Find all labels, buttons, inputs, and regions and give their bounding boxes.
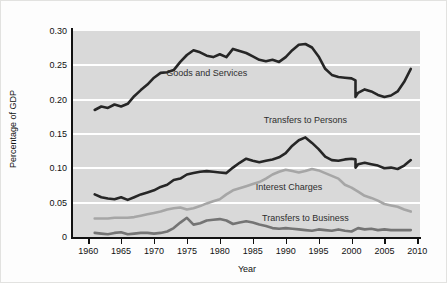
- x-tick-label: 1965: [104, 246, 138, 256]
- y-tick-label: 0.05: [33, 198, 67, 208]
- y-tick-label: 0.25: [33, 60, 67, 70]
- x-tick-label: 2000: [335, 246, 369, 256]
- series-label: Transfers to Persons: [264, 115, 347, 125]
- x-axis-title: Year: [229, 264, 265, 274]
- x-tick: [88, 239, 89, 244]
- x-tick: [417, 239, 418, 244]
- x-tick-label: 1960: [71, 246, 105, 256]
- chart-lines: [73, 31, 420, 237]
- x-tick: [220, 239, 221, 244]
- x-tick: [253, 239, 254, 244]
- series-label: Interest Charges: [256, 182, 323, 192]
- x-tick-label: 1985: [236, 246, 270, 256]
- x-axis-line: [71, 237, 421, 239]
- x-tick: [121, 239, 122, 244]
- x-tick-label: 2010: [400, 246, 434, 256]
- x-tick-label: 1990: [269, 246, 303, 256]
- x-tick-label: 1980: [203, 246, 237, 256]
- series-line: [95, 44, 411, 110]
- series-line: [95, 137, 411, 200]
- x-tick-label: 1995: [302, 246, 336, 256]
- y-tick-label: 0.10: [33, 163, 67, 173]
- series-label: Goods and Services: [166, 68, 247, 78]
- y-tick-label: 0.20: [33, 95, 67, 105]
- x-tick-label: 2005: [367, 246, 401, 256]
- x-tick-label: 1970: [137, 246, 171, 256]
- series-label: Transfers to Business: [262, 213, 349, 223]
- x-tick: [286, 239, 287, 244]
- y-axis-title: Percentage of GDP: [8, 69, 18, 189]
- y-tick-label: 0.15: [33, 129, 67, 139]
- series-line: [95, 218, 411, 235]
- x-tick: [319, 239, 320, 244]
- x-tick: [384, 239, 385, 244]
- chart-figure: Percentage of GDP Year 00.050.100.150.20…: [0, 0, 447, 283]
- y-tick-label: 0.30: [33, 26, 67, 36]
- y-axis-line: [71, 28, 73, 239]
- x-tick: [154, 239, 155, 244]
- x-tick-label: 1975: [170, 246, 204, 256]
- x-tick: [352, 239, 353, 244]
- x-tick: [187, 239, 188, 244]
- y-tick-label: 0: [33, 232, 67, 242]
